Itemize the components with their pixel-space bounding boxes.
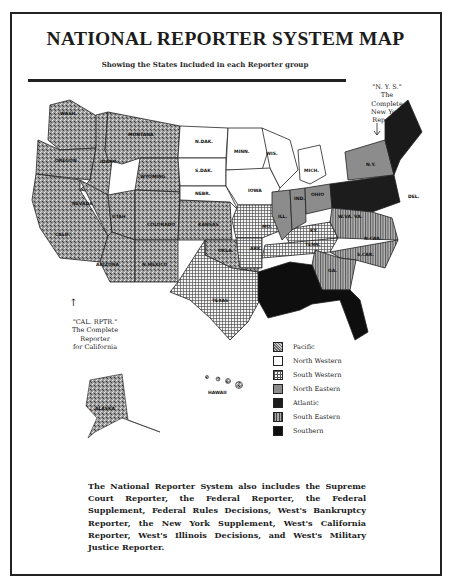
svg-text:KY.: KY. <box>310 228 318 233</box>
svg-text:HAWAII: HAWAII <box>208 390 227 395</box>
svg-text:WYOMING: WYOMING <box>140 174 166 179</box>
southern-swatch-icon <box>273 426 283 436</box>
svg-text:TENN.: TENN. <box>305 242 321 247</box>
region-atlantic <box>330 175 400 212</box>
legend-label: North Western <box>293 357 342 365</box>
svg-text:N.DAK.: N.DAK. <box>195 139 213 144</box>
svg-text:TEXAS: TEXAS <box>212 298 228 303</box>
svg-text:N.CAR.: N.CAR. <box>364 236 382 241</box>
svg-text:ILL.: ILL. <box>278 214 287 219</box>
svg-text:MICH.: MICH. <box>304 168 319 173</box>
atlantic-swatch-icon <box>273 398 283 408</box>
svg-text:COLORADO: COLORADO <box>147 222 175 227</box>
svg-text:OKLA.: OKLA. <box>218 248 234 253</box>
south-western-swatch-icon <box>273 370 283 380</box>
svg-text:MO.: MO. <box>262 224 272 229</box>
svg-text:NEBR.: NEBR. <box>195 191 211 196</box>
legend-label: Southern <box>293 427 324 435</box>
legend-label: Pacific <box>293 343 315 351</box>
svg-text:IDAHO: IDAHO <box>100 159 117 164</box>
legend-label: South Western <box>293 371 342 379</box>
svg-text:UTAH: UTAH <box>112 214 126 219</box>
svg-text:IOWA: IOWA <box>248 188 262 193</box>
legend-item-atlantic: Atlantic <box>273 396 342 410</box>
hawaii-shape <box>205 375 242 388</box>
legend-label: Atlantic <box>293 399 319 407</box>
svg-text:CALIF.: CALIF. <box>55 232 71 237</box>
svg-text:ALASKA: ALASKA <box>95 406 116 411</box>
svg-text:N.Y.: N.Y. <box>366 162 376 167</box>
footer-note: The National Reporter System also includ… <box>88 480 366 553</box>
svg-text:MONTANA: MONTANA <box>128 132 154 137</box>
legend: Pacific North Western South Western Nort… <box>273 340 342 438</box>
svg-text:S.CAR.: S.CAR. <box>357 252 374 257</box>
svg-text:KANSAS: KANSAS <box>198 222 219 227</box>
svg-text:OREGON: OREGON <box>55 158 77 163</box>
svg-text:DEL.: DEL. <box>408 194 420 199</box>
legend-item-southern: Southern <box>273 424 342 438</box>
south-eastern-swatch-icon <box>273 412 283 422</box>
svg-text:MINN.: MINN. <box>234 149 250 154</box>
legend-item-south-western: South Western <box>273 368 342 382</box>
svg-text:N.MEXICO: N.MEXICO <box>142 262 167 267</box>
svg-text:OHIO: OHIO <box>311 192 324 197</box>
north-eastern-swatch-icon <box>273 384 283 394</box>
svg-text:ARIZONA: ARIZONA <box>96 262 119 267</box>
svg-text:NEVADA: NEVADA <box>72 201 93 206</box>
legend-label: South Eastern <box>293 413 340 421</box>
svg-text:WIS.: WIS. <box>266 151 278 156</box>
svg-text:W.VA.: W.VA. <box>338 214 353 219</box>
pacific-swatch-icon <box>273 342 283 352</box>
svg-text:S.DAK.: S.DAK. <box>195 168 213 173</box>
legend-item-south-eastern: South Eastern <box>273 410 342 424</box>
north-western-swatch-icon <box>273 356 283 366</box>
nys-arrow-icon <box>374 123 380 135</box>
svg-text:ARK.: ARK. <box>250 246 262 251</box>
legend-label: North Eastern <box>293 385 340 393</box>
legend-item-pacific: Pacific <box>273 340 342 354</box>
legend-item-north-western: North Western <box>273 354 342 368</box>
legend-item-north-eastern: North Eastern <box>273 382 342 396</box>
svg-text:WASH.: WASH. <box>60 111 77 116</box>
svg-text:IND.: IND. <box>294 196 305 201</box>
svg-text:VA.: VA. <box>354 214 363 219</box>
svg-text:GA.: GA. <box>328 268 337 273</box>
